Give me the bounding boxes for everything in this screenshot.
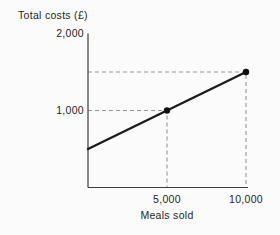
y-tick-label: 1,000 (56, 104, 84, 116)
chart-canvas: Total costs (£) Meals sold 5,00010,0001,… (0, 0, 280, 235)
guide-dashed-line (88, 111, 167, 188)
data-point-marker (164, 107, 170, 113)
plot-area: 5,00010,0001,0002,000 (56, 27, 263, 205)
y-tick-label: 2,000 (56, 27, 84, 39)
x-tick-label: 5,000 (153, 193, 181, 205)
total-costs-vs-meals-sold-chart: Total costs (£) Meals sold 5,00010,0001,… (0, 0, 280, 235)
x-axis-title: Meals sold (140, 209, 193, 221)
data-point-marker (243, 69, 249, 75)
x-tick-label: 10,000 (229, 193, 263, 205)
y-axis-title: Total costs (£) (18, 9, 88, 21)
